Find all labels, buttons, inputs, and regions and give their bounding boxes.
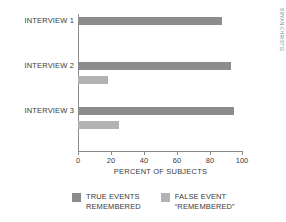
bar-true-interview-2 (78, 62, 231, 70)
legend-swatch-true-events (72, 193, 81, 202)
x-tick-label-60: 60 (173, 156, 181, 165)
plot-area (78, 14, 242, 151)
bar-true-interview-3 (78, 107, 234, 115)
category-label-interview-1: INTERVIEW 1 (0, 16, 74, 25)
legend-label-true-events-line1: TRUE EVENTS (86, 192, 141, 202)
legend-label-true-events: TRUE EVENTS REMEMBERED (86, 192, 141, 211)
category-label-interview-2: INTERVIEW 2 (0, 61, 74, 70)
bar-false-interview-3 (78, 121, 119, 129)
x-tick-label-40: 40 (140, 156, 148, 165)
legend-item-true-events: TRUE EVENTS REMEMBERED (72, 192, 141, 211)
x-tick-80 (210, 151, 211, 155)
x-tick-label-80: 80 (206, 156, 214, 165)
x-tick-label-0: 0 (76, 156, 80, 165)
legend-item-false-event: FALSE EVENT “REMEMBERED” (161, 192, 235, 211)
chart-legend: TRUE EVENTS REMEMBERED FALSE EVENT “REME… (72, 192, 286, 211)
legend-label-false-event-line1: FALSE EVENT (175, 192, 235, 202)
x-axis-title: PERCENT OF SUBJECTS (78, 167, 243, 176)
x-axis-line (78, 151, 243, 152)
x-tick-60 (177, 151, 178, 155)
legend-swatch-false-event (161, 193, 170, 202)
bar-false-interview-2 (78, 76, 108, 84)
credit-text: BRYAN CHRISTIE (279, 8, 284, 52)
legend-label-false-event: FALSE EVENT “REMEMBERED” (175, 192, 235, 211)
x-tick-40 (144, 151, 145, 155)
legend-label-true-events-line2: REMEMBERED (86, 202, 141, 212)
x-tick-label-100: 100 (236, 156, 249, 165)
x-tick-20 (111, 151, 112, 155)
x-tick-0 (78, 151, 79, 155)
x-tick-label-20: 20 (107, 156, 115, 165)
category-label-interview-3: INTERVIEW 3 (0, 106, 74, 115)
bar-chart: BRYAN CHRISTIE INTERVIEW 1 INTERVIEW 2 I… (0, 0, 286, 222)
bar-true-interview-1 (78, 17, 222, 25)
legend-label-false-event-line2: “REMEMBERED” (175, 202, 235, 212)
x-tick-100 (242, 151, 243, 155)
